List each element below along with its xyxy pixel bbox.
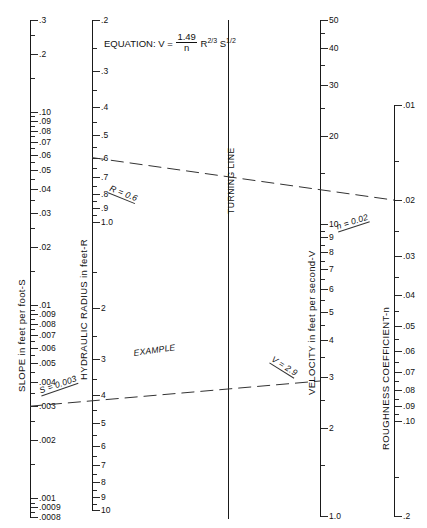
axis-major-tick (93, 71, 100, 72)
axis-major-tick (31, 382, 38, 383)
axis-tick-label: .002 (39, 436, 56, 445)
axis-tick-label: .3 (101, 67, 108, 76)
axis-major-tick (93, 423, 100, 424)
axis-minor-tick (395, 477, 399, 478)
axis-major-tick (321, 252, 328, 253)
axis-minor-tick (31, 179, 35, 180)
axis-tick-label: 40 (329, 44, 339, 53)
axis-tick-label: 10 (101, 506, 111, 515)
equation-variable: V = (158, 38, 173, 49)
axis-major-tick (93, 308, 100, 309)
axis-major-tick (93, 194, 100, 195)
axis-minor-tick (93, 272, 97, 273)
axis-tick-label: 20 (329, 132, 339, 141)
axis-major-tick (321, 312, 328, 313)
axis-minor-tick (31, 126, 35, 127)
axis-major-tick (321, 269, 328, 270)
axis-tick-label: .07 (39, 138, 51, 147)
equation-text: EQUATION: V = 1.49 n R2/3 S1/2 (104, 32, 236, 53)
example-rays-overlay (0, 0, 427, 528)
axis-major-tick (93, 135, 100, 136)
axis-tick-label: 3 (329, 373, 334, 382)
axis-minor-tick (31, 78, 35, 79)
axis-tick-label: 9 (101, 493, 106, 502)
axis-tick-label: 9 (329, 233, 334, 242)
axis-minor-tick (31, 512, 35, 513)
axis-tick-label: .8 (101, 190, 108, 199)
axis-minor-tick (321, 465, 325, 466)
axis-major-tick (395, 105, 402, 106)
axis-tick-label: 8 (101, 478, 106, 487)
equation-label: EQUATION: (104, 38, 156, 49)
axis-minor-tick (31, 355, 35, 356)
axis-tick-label: .2 (39, 50, 46, 59)
axis-minor-tick (321, 357, 325, 358)
axis-major-tick (31, 406, 38, 407)
axis-major-tick (31, 54, 38, 55)
axis-tick-label: 6 (329, 285, 334, 294)
axis-major-tick (93, 482, 100, 483)
axis-minor-tick (395, 362, 399, 363)
axis-tick-label: .7 (101, 173, 108, 182)
axis-tick-label: .09 (39, 117, 51, 126)
axis-minor-tick (31, 341, 35, 342)
axis-minor-tick (395, 161, 399, 162)
axis-minor-tick (321, 173, 325, 174)
axis-major-tick (321, 340, 328, 341)
axis-tick-label: 7 (101, 461, 106, 470)
axis-major-tick (93, 359, 100, 360)
axis-major-tick (321, 377, 328, 378)
axis-minor-tick (31, 136, 35, 137)
axis-major-tick (321, 20, 328, 21)
axis-major-tick (31, 189, 38, 190)
example-label: EXAMPLE (133, 342, 176, 358)
axis-tick-label: .3 (39, 16, 46, 25)
axis-tick-label: .003 (39, 402, 56, 411)
axis-minor-tick (93, 410, 97, 411)
axis-major-tick (395, 295, 402, 296)
axis-minor-tick (31, 35, 35, 36)
axis-major-tick (31, 517, 38, 518)
axis-major-tick (395, 351, 402, 352)
axis-tick-label: .03 (39, 209, 51, 218)
axis-tick-label: 7 (329, 265, 334, 274)
axis-major-tick (31, 363, 38, 364)
roughness-axis-title: ROUGHNESS COEFFICIENT-n (380, 307, 391, 450)
axis-tick-label: .04 (39, 185, 51, 194)
slope-axis-title: SLOPE in feet per foot-S (16, 279, 27, 392)
axis-tick-label: .06 (403, 347, 415, 356)
equation-denominator: n (176, 43, 197, 53)
axis-minor-tick (395, 381, 399, 382)
axis-major-tick (395, 372, 402, 373)
axis-major-tick (93, 222, 100, 223)
axis-tick-label: 6 (101, 442, 106, 451)
axis-major-tick (31, 498, 38, 499)
axis-major-tick (321, 48, 328, 49)
axis-minor-tick (31, 116, 35, 117)
slope-axis-line (30, 20, 31, 517)
axis-major-tick (31, 20, 38, 21)
axis-minor-tick (321, 108, 325, 109)
axis-tick-label: .08 (403, 386, 415, 395)
axis-minor-tick (93, 456, 97, 457)
axis-minor-tick (321, 300, 325, 301)
axis-minor-tick (31, 228, 35, 229)
axis-minor-tick (31, 310, 35, 311)
axis-major-tick (31, 324, 38, 325)
axis-major-tick (93, 177, 100, 178)
axis-major-tick (321, 237, 328, 238)
axis-minor-tick (395, 231, 399, 232)
axis-tick-label: 4 (101, 391, 106, 400)
axis-minor-tick (31, 200, 35, 201)
axis-major-tick (31, 142, 38, 143)
axis-major-tick (31, 170, 38, 171)
axis-tick-label: .07 (403, 368, 415, 377)
axis-tick-label: .9 (101, 204, 108, 213)
axis-tick-label: .06 (39, 151, 51, 160)
axis-tick-label: 2 (101, 304, 106, 313)
axis-minor-tick (31, 464, 35, 465)
axis-minor-tick (93, 435, 97, 436)
axis-major-tick (395, 390, 402, 391)
axis-major-tick (31, 112, 38, 113)
axis-major-tick (93, 497, 100, 498)
